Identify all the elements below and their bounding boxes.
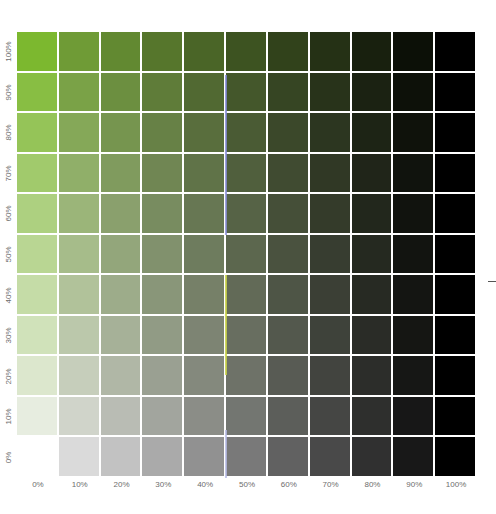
color-cell	[226, 113, 266, 152]
y-axis-label: 80%	[4, 118, 13, 148]
color-cell	[101, 32, 141, 71]
x-axis-label: 20%	[101, 480, 143, 489]
color-cell	[435, 32, 475, 71]
y-axis-label: 60%	[4, 199, 13, 229]
color-cell	[101, 235, 141, 274]
color-cell	[310, 397, 350, 436]
color-cell	[59, 397, 99, 436]
color-cell	[268, 194, 308, 233]
color-cell	[101, 275, 141, 314]
color-cell	[142, 437, 182, 476]
color-cell	[59, 32, 99, 71]
color-cell	[226, 154, 266, 193]
blue-line-artifact	[225, 75, 227, 235]
color-cell	[435, 275, 475, 314]
y-axis-label: 70%	[4, 158, 13, 188]
color-cell	[268, 113, 308, 152]
color-cell	[268, 275, 308, 314]
color-cell	[142, 275, 182, 314]
y-axis-label: 0%	[4, 442, 13, 472]
color-cell	[352, 73, 392, 112]
y-axis-label: 30%	[4, 321, 13, 351]
color-cell	[17, 32, 57, 71]
color-cell	[184, 73, 224, 112]
color-cell	[393, 356, 433, 395]
color-cell	[184, 437, 224, 476]
color-cell	[184, 32, 224, 71]
color-cell	[268, 437, 308, 476]
color-cell	[352, 275, 392, 314]
color-cell	[142, 154, 182, 193]
color-cell	[268, 316, 308, 355]
color-cell	[393, 194, 433, 233]
color-cell	[101, 316, 141, 355]
color-cell	[310, 32, 350, 71]
color-cell	[435, 235, 475, 274]
color-cell	[310, 437, 350, 476]
color-cell	[142, 194, 182, 233]
color-cell	[17, 235, 57, 274]
color-cell	[352, 32, 392, 71]
color-cell	[59, 356, 99, 395]
color-cell	[226, 235, 266, 274]
color-cell	[101, 397, 141, 436]
x-axis-label: 70%	[310, 480, 352, 489]
color-cell	[184, 316, 224, 355]
color-cell	[393, 32, 433, 71]
color-cell	[435, 73, 475, 112]
color-cell	[101, 113, 141, 152]
x-axis-label: 30%	[142, 480, 184, 489]
color-cell	[310, 113, 350, 152]
color-cell	[226, 275, 266, 314]
color-cell	[17, 316, 57, 355]
color-cell	[310, 275, 350, 314]
color-cell	[226, 316, 266, 355]
color-cell	[310, 356, 350, 395]
blue-line-artifact-bottom	[225, 430, 227, 478]
color-cell	[101, 437, 141, 476]
color-cell	[352, 154, 392, 193]
x-axis-label: 40%	[184, 480, 226, 489]
color-cell	[101, 356, 141, 395]
x-axis-label: 10%	[59, 480, 101, 489]
color-cell	[393, 397, 433, 436]
color-cell	[142, 113, 182, 152]
color-cell	[184, 275, 224, 314]
color-cell	[268, 154, 308, 193]
color-cell	[435, 316, 475, 355]
color-cell	[184, 235, 224, 274]
y-axis-label: 100%	[4, 37, 13, 67]
color-cell	[184, 154, 224, 193]
color-cell	[310, 154, 350, 193]
color-cell	[59, 73, 99, 112]
color-cell	[268, 397, 308, 436]
color-cell	[435, 113, 475, 152]
color-cell	[393, 316, 433, 355]
color-cell	[142, 73, 182, 112]
color-cell	[310, 194, 350, 233]
color-cell	[310, 235, 350, 274]
color-cell	[226, 73, 266, 112]
y-axis-label: 90%	[4, 77, 13, 107]
y-axis-label: 20%	[4, 361, 13, 391]
yellow-line-artifact	[225, 275, 227, 375]
color-cell	[352, 356, 392, 395]
x-axis-label: 90%	[393, 480, 435, 489]
color-cell	[142, 397, 182, 436]
color-cell	[435, 194, 475, 233]
color-cell	[142, 356, 182, 395]
color-cell	[352, 113, 392, 152]
color-cell	[310, 316, 350, 355]
color-cell	[226, 397, 266, 436]
y-axis-label: 50%	[4, 240, 13, 270]
color-cell	[352, 316, 392, 355]
color-cell	[59, 275, 99, 314]
color-cell	[17, 437, 57, 476]
color-cell	[393, 113, 433, 152]
x-axis-label: 0%	[17, 480, 59, 489]
color-cell	[435, 437, 475, 476]
color-grid	[17, 32, 477, 478]
color-cell	[226, 194, 266, 233]
color-cell	[59, 316, 99, 355]
color-cell	[101, 194, 141, 233]
